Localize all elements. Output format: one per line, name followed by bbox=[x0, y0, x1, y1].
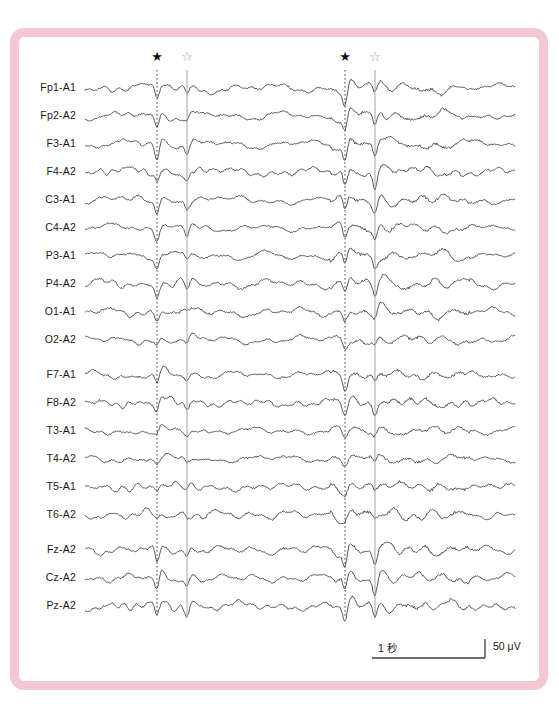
scale-bar bbox=[0, 0, 559, 709]
time-scale-label: 1 秒 bbox=[378, 640, 397, 655]
eeg-plot-area: Fp1-A1Fp2-A2F3-A1F4-A2C3-A1C4-A2P3-A1P4-… bbox=[0, 0, 559, 709]
amplitude-scale-label: 50 μV bbox=[493, 640, 521, 652]
